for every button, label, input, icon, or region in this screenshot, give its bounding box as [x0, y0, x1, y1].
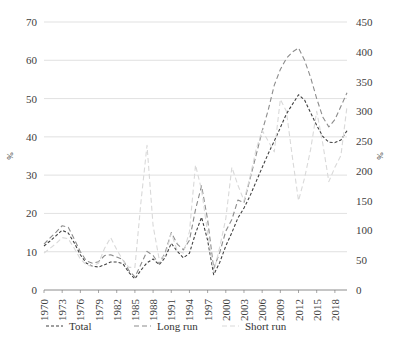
- y-axis-right-tick-label: 200: [356, 165, 373, 177]
- y-axis-right-tick-label: 250: [356, 135, 373, 147]
- x-axis-tick-label: 1970: [38, 299, 50, 322]
- y-axis-left-tick-label: 0: [32, 284, 38, 296]
- legend-label-total: Total: [69, 320, 91, 332]
- chart-background: [0, 0, 396, 343]
- x-axis-tick-label: 2015: [311, 299, 323, 322]
- x-axis-tick-label: 1994: [183, 299, 195, 322]
- y-axis-right-tick-label: 300: [356, 105, 373, 117]
- x-axis-tick-label: 2006: [256, 299, 268, 322]
- y-axis-right-tick-label: 400: [356, 46, 373, 58]
- x-axis-tick-label: 2003: [238, 299, 250, 322]
- x-axis-tick-label: 1997: [202, 299, 214, 322]
- x-axis-tick-label: 2018: [329, 299, 341, 322]
- y-axis-left-title: %: [5, 152, 15, 160]
- y-axis-right-title: %: [375, 152, 385, 160]
- y-axis-right-tick-label: 0: [356, 284, 362, 296]
- x-axis-tick-label: 1973: [56, 299, 68, 322]
- y-axis-right-tick-label: 150: [356, 195, 373, 207]
- legend-label-short-run: Short run: [245, 320, 287, 332]
- x-axis-tick-label: 1988: [147, 299, 159, 322]
- x-axis-tick-label: 1979: [93, 299, 105, 322]
- y-axis-left-tick-label: 60: [26, 54, 38, 66]
- y-axis-right-tick-label: 350: [356, 76, 373, 88]
- x-axis-tick-label: 1976: [74, 299, 86, 322]
- x-axis-tick-label: 1991: [165, 299, 177, 321]
- x-axis-tick-label: 2000: [220, 299, 232, 322]
- y-axis-left-tick-label: 50: [26, 93, 38, 105]
- legend-label-long-run: Long run: [157, 320, 198, 332]
- y-axis-left-tick-label: 20: [26, 207, 38, 219]
- x-axis-tick-label: 1985: [129, 299, 141, 322]
- y-axis-left-tick-label: 70: [26, 16, 38, 28]
- chart-legend: TotalLong runShort run: [46, 320, 287, 332]
- y-axis-right-tick-label: 450: [356, 16, 373, 28]
- y-axis-left-tick-label: 30: [26, 169, 38, 181]
- chart-container: 010203040506070 050100150200250300350400…: [0, 0, 396, 343]
- y-axis-right-tick-label: 100: [356, 224, 373, 236]
- y-axis-left-tick-label: 40: [26, 131, 38, 143]
- y-axis-right-tick-label: 50: [356, 254, 368, 266]
- x-axis-tick-label: 1982: [111, 299, 123, 321]
- x-axis-tick-label: 2009: [274, 299, 286, 322]
- x-axis-tick-label: 2012: [293, 299, 305, 321]
- y-axis-left-tick-label: 10: [26, 246, 38, 258]
- line-chart: 010203040506070 050100150200250300350400…: [0, 0, 396, 343]
